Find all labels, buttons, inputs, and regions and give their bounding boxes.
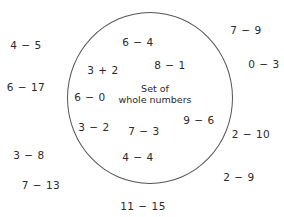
outside-expression: 2 − 9	[223, 171, 254, 183]
inside-expression: 9 − 6	[183, 114, 214, 126]
set-label: Set of whole numbers	[118, 83, 191, 105]
inside-expression: 7 − 3	[128, 125, 159, 137]
outside-expression: 7 − 9	[230, 24, 261, 36]
inside-expression: 3 + 2	[87, 64, 118, 76]
inside-expression: 6 − 0	[74, 91, 105, 103]
set-label-line-1: Set of	[118, 83, 191, 94]
outside-expression: 2 − 10	[232, 128, 271, 140]
outside-expression: 3 − 8	[13, 149, 44, 161]
inside-expression: 6 − 4	[122, 36, 153, 48]
outside-expression: 0 − 3	[248, 58, 279, 70]
inside-expression: 4 − 4	[122, 151, 153, 163]
whole-numbers-set-diagram: Set of whole numbers 6 − 4 8 − 1 3 + 2 6…	[0, 0, 284, 217]
outside-expression: 4 − 5	[10, 39, 41, 51]
outside-expression: 6 − 17	[7, 81, 46, 93]
outside-expression: 11 − 15	[120, 200, 166, 212]
inside-expression: 3 − 2	[78, 121, 109, 133]
outside-expression: 7 − 13	[22, 179, 61, 191]
set-label-line-2: whole numbers	[118, 94, 191, 105]
inside-expression: 8 − 1	[154, 59, 185, 71]
